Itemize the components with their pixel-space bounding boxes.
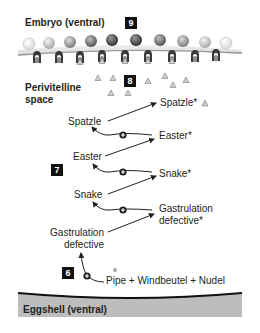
toll-pathway-diagram: Embryo (ventral) 9 8 Perivitelline space…: [0, 0, 260, 333]
step-badge-7: 7: [51, 164, 63, 176]
gd-label-line2: defective: [42, 239, 104, 250]
eggshell-label: Eggshell (ventral): [23, 304, 107, 315]
spatzle-ligands: [95, 73, 189, 96]
embryo-label: Embryo (ventral): [25, 17, 104, 28]
easter-active-label: Easter*: [159, 130, 192, 141]
spatzle-label: Spatzle: [68, 116, 101, 127]
perivitelline-label-line2: space: [25, 94, 53, 105]
snake-active-label: Snake*: [159, 168, 191, 179]
spatzle-active-label: Spatzle*: [160, 97, 197, 108]
step-badge-9: 9: [125, 17, 137, 29]
sulfation-dot: [113, 268, 117, 272]
step-badge-8: 8: [124, 75, 136, 87]
perivitelline-label-line1: Perivitelline: [25, 82, 81, 93]
activation-arrows: [105, 103, 156, 232]
step-badge-6: 6: [62, 267, 74, 279]
easter-label: Easter: [73, 151, 102, 162]
snake-label: Snake: [74, 189, 102, 200]
activator-complex-label: Pipe + Windbeutel + Nudel: [106, 275, 225, 286]
gd-active-label-line2: defective*: [159, 215, 203, 226]
gd-active-label-line1: Gastrulation: [159, 203, 213, 214]
gd-label-line1: Gastrulation: [42, 227, 104, 238]
ligand-icon: [201, 99, 209, 107]
